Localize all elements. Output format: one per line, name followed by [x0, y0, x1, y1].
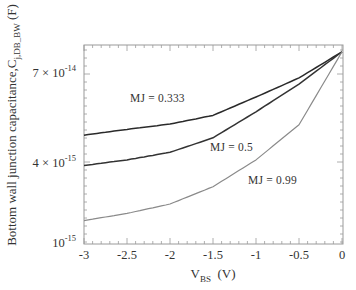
x-axis-title: VBS (V)	[191, 266, 236, 284]
x-tick-label: -0.5	[289, 248, 309, 263]
x-tick-label: -1.5	[203, 248, 223, 263]
x-tick-label: 0	[339, 248, 345, 263]
y-tick-label: 4 × 10-15	[33, 154, 76, 171]
x-tick-label: -1	[251, 248, 261, 263]
x-tick-label: -2	[165, 248, 175, 263]
x-tick-label: -2.5	[117, 248, 137, 263]
series-line	[84, 52, 342, 221]
y-axis-title: Bottom wall junction capacitance,Cj,DB_B…	[4, 4, 22, 246]
y-tick-label: 10-15	[52, 234, 76, 251]
series-label-mj-0333: MJ = 0.333	[130, 92, 185, 104]
series-line	[84, 52, 342, 135]
y-axis-title-container: Bottom wall junction capacitance,Cj,DB_B…	[2, 0, 24, 250]
series-label-mj-05: MJ = 0.5	[210, 141, 253, 153]
curves	[84, 52, 342, 221]
y-tick-label: 7 × 10-14	[33, 64, 76, 81]
x-tick-label: -3	[79, 248, 89, 263]
series-label-mj-099: MJ = 0.99	[248, 174, 297, 186]
